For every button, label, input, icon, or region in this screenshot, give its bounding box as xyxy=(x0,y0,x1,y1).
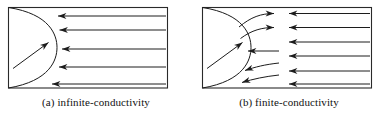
reservoir-boundary-rect xyxy=(9,8,168,89)
panel-b-caption: (b) finite-conductivity xyxy=(193,96,385,109)
panel-b-drawing xyxy=(193,0,385,95)
reservoir-boundary-rect xyxy=(203,8,372,89)
panel-infinite-conductivity: (a) infinite-conductivity xyxy=(0,0,192,120)
panel-a-drawing xyxy=(0,0,192,95)
panel-a-caption: (a) infinite-conductivity xyxy=(0,96,192,109)
panel-finite-conductivity: (b) finite-conductivity xyxy=(193,0,385,120)
figure-root: (a) infinite-conductivity xyxy=(0,0,385,120)
